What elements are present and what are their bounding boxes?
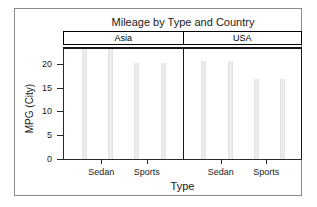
y-axis-line [63,47,64,159]
panel-header-strip: Asia USA [63,31,302,45]
plot-area [63,47,302,159]
y-tick-label: 0 [10,154,52,164]
x-tick-mark [266,159,267,164]
x-tick-mark [101,159,102,164]
bar [82,49,87,159]
bar [228,61,233,159]
bar [161,63,166,159]
x-tick-mark [221,159,222,164]
bar [201,61,206,159]
x-axis-title: Type [63,180,302,192]
x-tick-label: Sedan [196,167,246,177]
y-tick-mark [57,88,63,89]
panel-header-asia: Asia [64,32,183,44]
chart-screenshot: Mileage by Type and Country Asia USA 051… [0,0,317,207]
x-tick-label: Sports [241,167,291,177]
y-tick-mark [57,64,63,65]
bar [280,79,285,159]
panel-right-edge [301,49,302,159]
bars-asia [63,49,183,159]
bar [108,49,113,159]
y-tick-mark [57,111,63,112]
bars-usa [183,49,303,159]
x-tick-label: Sedan [76,167,126,177]
y-tick-mark [57,135,63,136]
panel-usa [183,49,303,159]
panel-asia [63,49,183,159]
bar [254,79,259,159]
panel-header-usa: USA [183,32,302,44]
bar [134,63,139,159]
x-tick-label: Sports [122,167,172,177]
y-tick-mark [57,159,63,160]
panel-divider [183,49,184,159]
chart-title: Mileage by Type and Country [63,16,303,28]
x-tick-mark [147,159,148,164]
y-axis-title: MPG (City) [24,64,35,154]
